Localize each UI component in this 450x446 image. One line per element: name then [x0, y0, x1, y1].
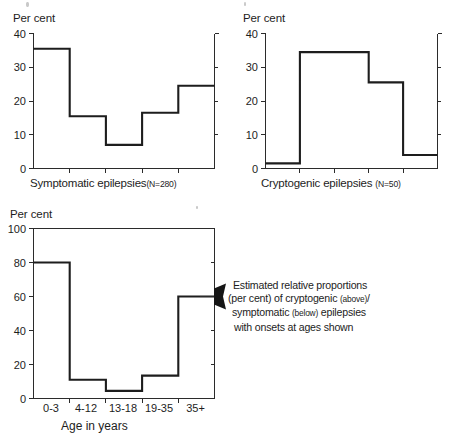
chart3-ytick-0: 0 — [20, 393, 26, 405]
figure-vector-layer: 40 30 20 10 0 — [0, 0, 450, 446]
chart1-ytick-20: 20 — [14, 95, 26, 107]
figure-panel: Per cent Per cent Per cent Symptomatic e… — [0, 0, 450, 446]
chart3-step-series — [34, 263, 215, 391]
chart1-step-series — [34, 49, 215, 145]
chart3-ytick-80: 80 — [14, 257, 26, 269]
chart2-ytick-40: 40 — [246, 28, 258, 40]
left-arrow-marker — [214, 284, 226, 310]
chart3-ytick-40: 40 — [14, 325, 26, 337]
chart2-y-ticks — [261, 34, 266, 169]
chart2-ytick-0: 0 — [252, 163, 258, 175]
chart3-ytick-100: 100 — [8, 223, 26, 235]
chart3-ytick-60: 60 — [14, 291, 26, 303]
chart1-ytick-40: 40 — [14, 28, 26, 40]
chart-relative-proportions: 100 80 60 40 20 0 — [8, 223, 226, 405]
chart3-x-ticks — [70, 399, 179, 404]
chart2-x-ticks — [300, 169, 403, 174]
chart3-y-ticks — [29, 229, 34, 399]
chart2-ytick-20: 20 — [246, 95, 258, 107]
chart2-ytick-30: 30 — [246, 61, 258, 73]
chart1-ytick-0: 0 — [20, 163, 26, 175]
chart-symptomatic: 40 30 20 10 0 — [14, 28, 219, 175]
chart1-y-ticks — [29, 34, 34, 169]
chart-cryptogenic: 40 30 20 10 0 — [246, 28, 442, 175]
chart1-ytick-30: 30 — [14, 61, 26, 73]
chart3-right-ticks — [211, 263, 215, 365]
chart2-right-ticks — [438, 34, 443, 135]
chart2-ytick-10: 10 — [246, 129, 258, 141]
chart2-step-series — [266, 52, 438, 163]
chart1-ytick-10: 10 — [14, 129, 26, 141]
chart3-ytick-20: 20 — [14, 359, 26, 371]
chart1-x-ticks — [70, 169, 179, 174]
chart1-right-ticks — [215, 34, 220, 135]
